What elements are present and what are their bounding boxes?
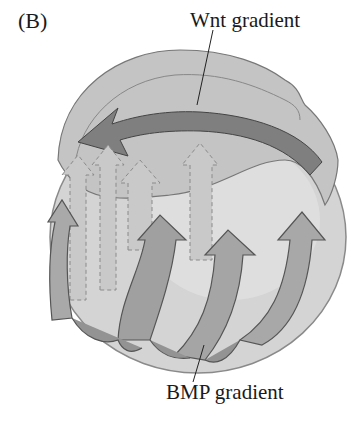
embryo-diagram [0, 0, 361, 421]
